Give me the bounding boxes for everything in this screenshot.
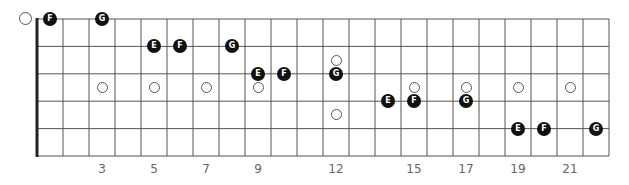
inlay-marker-icon	[201, 82, 212, 93]
inlay-marker-icon	[149, 82, 160, 93]
fretboard-diagram: FGEFGEFGEFGEFG35791215171921	[0, 0, 629, 185]
note-dot-g: G	[95, 12, 109, 26]
inlay-marker-icon	[331, 55, 342, 66]
fret-number-label: 9	[243, 162, 273, 176]
fret-number-label: 7	[191, 162, 221, 176]
fret-number-label: 5	[139, 162, 169, 176]
fret-number-label: 21	[555, 162, 585, 176]
inlay-marker-icon	[565, 82, 576, 93]
inlay-marker-icon	[97, 82, 108, 93]
fret-number-label: 12	[321, 162, 351, 176]
inlay-marker-icon	[409, 82, 420, 93]
inlay-marker-icon	[331, 109, 342, 120]
note-dot-g: G	[589, 122, 603, 136]
fret-number-label: 17	[451, 162, 481, 176]
open-string-icon	[19, 12, 32, 25]
inlay-marker-icon	[513, 82, 524, 93]
note-dot-e: E	[511, 122, 525, 136]
note-dot-f: F	[277, 67, 291, 81]
fret-number-label: 15	[399, 162, 429, 176]
note-dot-e: E	[251, 67, 265, 81]
fret-number-label: 19	[503, 162, 533, 176]
inlay-marker-icon	[461, 82, 472, 93]
note-dot-f: F	[537, 122, 551, 136]
note-dot-g: G	[329, 67, 343, 81]
inlay-marker-icon	[253, 82, 264, 93]
fret-number-label: 3	[87, 162, 117, 176]
note-dot-f: F	[43, 12, 57, 26]
fretboard-grid	[0, 0, 629, 185]
